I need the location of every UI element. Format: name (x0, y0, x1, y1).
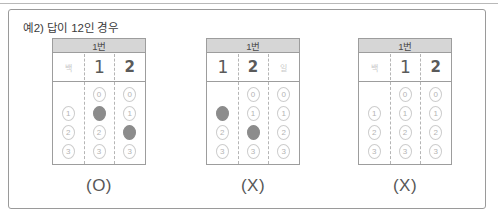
bubble-column: 0123 (268, 82, 299, 164)
page-title: 예2) 답이 12인 경우 (23, 19, 119, 35)
bubble-row: 2 (390, 123, 421, 142)
bubble-grid: 012301230123 (53, 82, 145, 164)
bubble-row: 2 (53, 123, 84, 142)
bubble-empty[interactable]: 2 (277, 125, 290, 140)
omr-sheet: 1번12일012301230123 (206, 38, 300, 165)
written-answer-cell[interactable]: 2 (114, 53, 145, 81)
bubble-empty[interactable]: 1 (123, 106, 136, 121)
bubble-row: 1 (390, 104, 421, 123)
bubble-empty[interactable]: 0 (277, 87, 290, 102)
page-top-rule (0, 3, 498, 4)
bubble-row: 1 (359, 104, 390, 123)
bubble-row: 1 (420, 104, 451, 123)
bubble-row: 2 (114, 123, 145, 142)
bubble-empty[interactable]: 3 (277, 144, 290, 159)
bubble-empty[interactable]: 2 (216, 125, 229, 140)
bubble-filled[interactable]: 1 (93, 106, 106, 121)
verdict-label: (X) (201, 176, 305, 196)
bubble-row: 0 (53, 85, 84, 104)
bubble-row: 2 (359, 123, 390, 142)
bubble-row: 0 (420, 85, 451, 104)
bubble-empty[interactable]: 1 (247, 106, 260, 121)
bubble-grid: 012301230123 (207, 82, 299, 164)
bubble-empty[interactable]: 3 (368, 144, 381, 159)
verdict-label: (O) (47, 176, 151, 196)
bubble-empty[interactable]: 2 (93, 125, 106, 140)
example-frame: 예2) 답이 12인 경우 1번백12012301230123(O)1번12일0… (8, 9, 486, 209)
handwritten-digit: 1 (400, 59, 410, 76)
bubble-column: 0123 (359, 82, 390, 164)
handwritten-digit: 1 (94, 59, 104, 76)
bubble-row: 3 (114, 142, 145, 161)
bubble-empty[interactable]: 3 (429, 144, 442, 159)
written-answer-cell[interactable]: 일 (268, 53, 299, 81)
written-answer-row: 백12 (359, 53, 451, 82)
bubble-empty[interactable]: 1 (399, 106, 412, 121)
bubble-empty[interactable]: 1 (368, 106, 381, 121)
written-answer-cell[interactable]: 2 (420, 53, 451, 81)
bubble-empty[interactable]: 2 (399, 125, 412, 140)
bubble-row: 1 (238, 104, 269, 123)
written-answer-cell[interactable]: 백 (359, 53, 390, 81)
written-answer-cell[interactable]: 2 (238, 53, 269, 81)
bubble-empty[interactable]: 0 (247, 87, 260, 102)
bubble-empty[interactable]: 0 (93, 87, 106, 102)
written-answer-row: 백12 (53, 53, 145, 82)
bubble-empty[interactable]: 0 (123, 87, 136, 102)
bubble-row: 2 (84, 123, 115, 142)
written-answer-cell[interactable]: 1 (390, 53, 421, 81)
bubble-row: 3 (84, 142, 115, 161)
bubble-filled[interactable]: 1 (216, 106, 229, 121)
written-answer-cell[interactable]: 1 (207, 53, 238, 81)
bubble-column: 0123 (238, 82, 269, 164)
bubble-empty[interactable]: 3 (123, 144, 136, 159)
bubble-empty[interactable]: 3 (216, 144, 229, 159)
bubble-row: 1 (84, 104, 115, 123)
bubble-row: 3 (53, 142, 84, 161)
bubble-column: 0123 (390, 82, 421, 164)
omr-sheet: 1번백12012301230123 (52, 38, 146, 165)
bubble-row: 0 (238, 85, 269, 104)
bubble-filled[interactable]: 2 (247, 125, 260, 140)
omr-sheet: 1번백12012301230123 (358, 38, 452, 165)
place-value-label: 백 (371, 62, 378, 73)
bubble-empty[interactable]: 0 (399, 87, 412, 102)
bubble-row: 3 (390, 142, 421, 161)
handwritten-digit: 1 (217, 59, 227, 76)
written-answer-cell[interactable]: 백 (53, 53, 84, 81)
bubble-empty[interactable]: 0 (429, 87, 442, 102)
bubble-column: 0123 (84, 82, 115, 164)
bubble-row: 0 (268, 85, 299, 104)
bubble-empty[interactable]: 3 (93, 144, 106, 159)
bubble-row: 0 (207, 85, 238, 104)
bubble-empty[interactable]: 2 (429, 125, 442, 140)
screenshot-root: 예2) 답이 12인 경우 1번백12012301230123(O)1번12일0… (0, 0, 498, 224)
bubble-row: 2 (238, 123, 269, 142)
bubble-row: 0 (359, 85, 390, 104)
bubble-empty[interactable]: 3 (399, 144, 412, 159)
bubble-empty[interactable]: 2 (368, 125, 381, 140)
bubble-empty[interactable]: 1 (429, 106, 442, 121)
bubble-empty[interactable]: 2 (62, 125, 75, 140)
place-value-label: 백 (65, 62, 72, 73)
bubble-grid: 012301230123 (359, 82, 451, 164)
bubble-row: 1 (268, 104, 299, 123)
bubble-absent: 0 (62, 87, 75, 102)
written-answer-cell[interactable]: 1 (84, 53, 115, 81)
bubble-empty[interactable]: 3 (62, 144, 75, 159)
bubble-row: 3 (207, 142, 238, 161)
place-value-label: 일 (280, 62, 287, 73)
bubble-empty[interactable]: 3 (247, 144, 260, 159)
bubble-row: 1 (53, 104, 84, 123)
omr-card-3: 1번백12012301230123(X) (353, 38, 457, 206)
bubble-empty[interactable]: 1 (277, 106, 290, 121)
bubble-row: 3 (359, 142, 390, 161)
bubble-filled[interactable]: 2 (123, 125, 136, 140)
omr-card-2: 1번12일012301230123(X) (201, 38, 305, 206)
bubble-empty[interactable]: 1 (62, 106, 75, 121)
handwritten-digit: 2 (248, 60, 258, 75)
bubble-row: 2 (420, 123, 451, 142)
bubble-column: 0123 (53, 82, 84, 164)
bubble-row: 3 (238, 142, 269, 161)
written-answer-row: 12일 (207, 53, 299, 82)
